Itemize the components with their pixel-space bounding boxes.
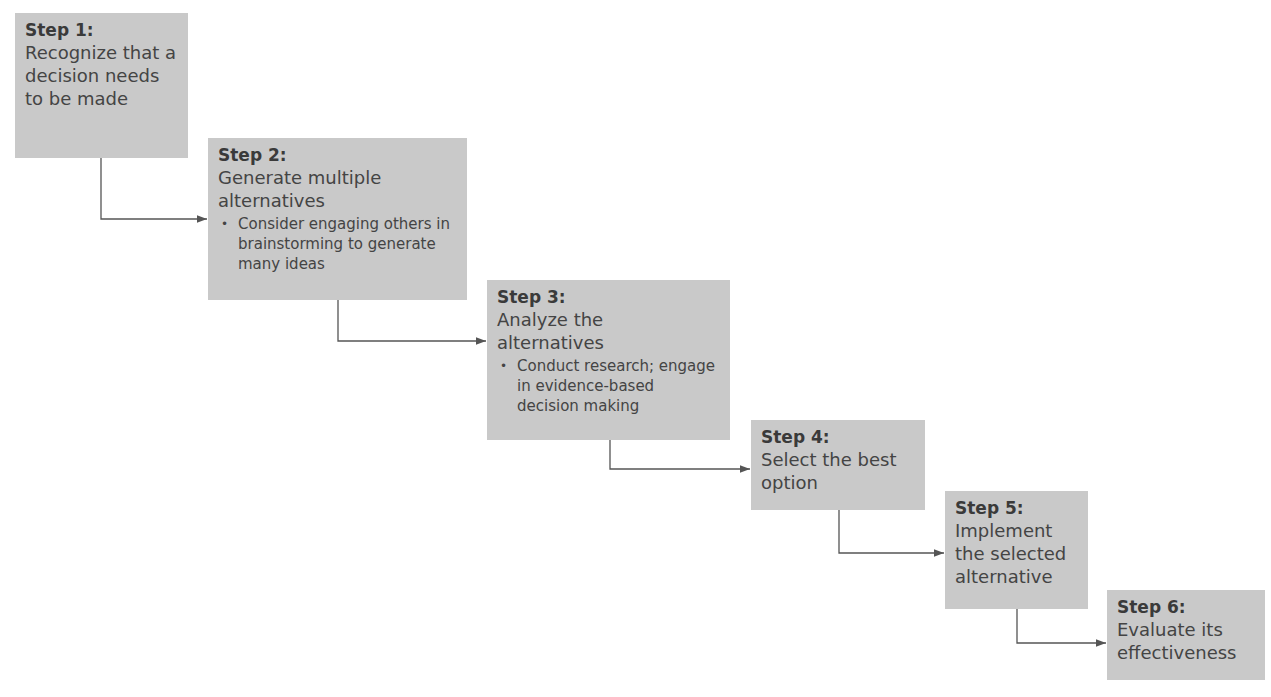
connector-1-2 [101, 158, 207, 219]
step-label: Step 5: [955, 497, 1078, 519]
connector-4-5 [839, 510, 944, 553]
step-label: Step 4: [761, 426, 915, 448]
step-text: Analyze the alternatives [497, 308, 647, 354]
step-2-box: Step 2: Generate multiple alternatives C… [208, 138, 467, 300]
step-text: Generate multiple alternatives [218, 166, 428, 212]
step-bullet: Conduct research; engage in evidence-bas… [497, 356, 720, 416]
step-label: Step 3: [497, 286, 720, 308]
step-text: Select the best option [761, 448, 915, 494]
step-label: Step 1: [25, 19, 178, 41]
connector-3-4 [610, 440, 750, 469]
step-text: Implement the selected alternative [955, 519, 1078, 588]
step-label: Step 6: [1117, 596, 1255, 618]
step-1-box: Step 1: Recognize that a decision needs … [15, 13, 188, 158]
step-5-box: Step 5: Implement the selected alternati… [945, 491, 1088, 609]
step-4-box: Step 4: Select the best option [751, 420, 925, 510]
step-3-box: Step 3: Analyze the alternatives Conduct… [487, 280, 730, 440]
step-label: Step 2: [218, 144, 457, 166]
step-text: Recognize that a decision needs to be ma… [25, 41, 178, 110]
connector-2-3 [338, 300, 486, 341]
connector-5-6 [1017, 609, 1106, 643]
step-6-box: Step 6: Evaluate its effectiveness [1107, 590, 1265, 680]
step-text: Evaluate its effectiveness [1117, 618, 1255, 664]
step-bullet: Consider engaging others in brainstormin… [218, 214, 457, 274]
